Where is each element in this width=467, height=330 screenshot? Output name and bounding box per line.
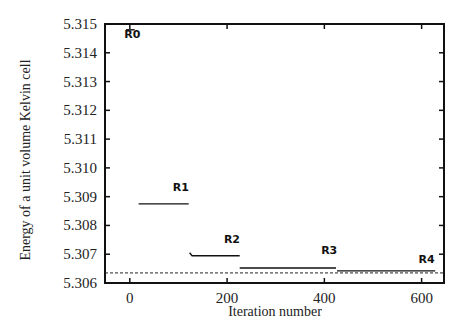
y-axis: 5.3065.3075.3085.3095.3105.3115.3125.313…	[63, 16, 444, 291]
plot-border	[105, 24, 444, 283]
x-tick-label: 600	[410, 290, 433, 306]
label-r3: R3	[321, 244, 337, 257]
series-group	[126, 30, 435, 271]
y-tick-label: 5.307	[63, 246, 97, 262]
y-tick-label: 5.309	[63, 189, 97, 205]
x-axis: 0200400600	[126, 24, 433, 306]
y-tick-label: 5.314	[63, 45, 97, 61]
y-tick-label: 5.308	[63, 217, 97, 233]
series-labels: R0R1R2R3R4	[124, 28, 435, 265]
y-tick-label: 5.311	[64, 131, 97, 147]
plot-frame	[105, 24, 444, 283]
y-tick-label: 5.313	[63, 74, 97, 90]
y-tick-label: 5.310	[63, 160, 97, 176]
y-tick-label: 5.315	[63, 16, 97, 32]
label-r4: R4	[418, 253, 434, 266]
series-r2	[190, 253, 240, 256]
label-r1: R1	[173, 181, 189, 194]
label-r0: R0	[124, 28, 140, 41]
y-tick-label: 5.306	[63, 275, 97, 291]
y-axis-title: Energy of a unit volume Kelvin cell	[18, 59, 33, 260]
x-tick-label: 0	[126, 290, 134, 306]
label-r2: R2	[224, 233, 240, 246]
energy-chart: 5.3065.3075.3085.3095.3105.3115.3125.313…	[0, 0, 467, 330]
x-axis-title: Iteration number	[228, 304, 322, 319]
y-tick-label: 5.312	[63, 102, 97, 118]
